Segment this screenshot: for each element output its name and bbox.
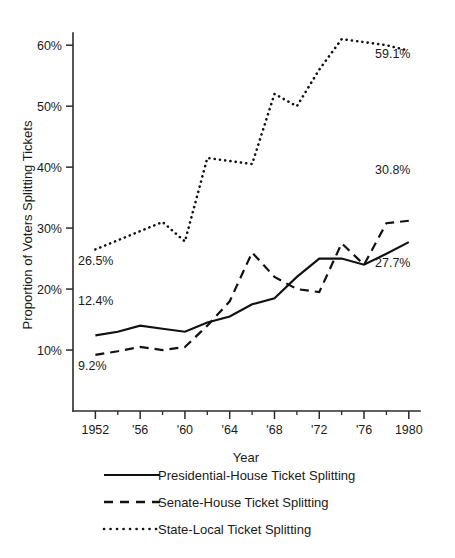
annotation-265: 26.5%: [78, 254, 113, 268]
x-tick-label: '60: [177, 423, 193, 437]
y-tick-label: 50%: [37, 100, 62, 114]
y-axis-title: Proportion of Voters Splitting Tickets: [20, 120, 35, 329]
x-tick-label: '56: [132, 423, 148, 437]
x-tick-label: '68: [266, 423, 282, 437]
x-tick-label: '76: [356, 423, 372, 437]
x-tick-label: 1952: [81, 423, 109, 437]
annotation-124: 12.4%: [78, 294, 113, 308]
y-tick-label: 60%: [37, 39, 62, 53]
x-tick-label: 1980: [395, 423, 423, 437]
y-tick-label: 20%: [37, 283, 62, 297]
y-tick-label: 10%: [37, 344, 62, 358]
legend-label-presidential-house: Presidential-House Ticket Splitting: [158, 468, 355, 483]
y-tick-label: 30%: [37, 222, 62, 236]
ticket-splitting-line-chart: Proportion of Voters Splitting Tickets 1…: [0, 0, 455, 558]
legend-label-state-local: State-Local Ticket Splitting: [158, 522, 311, 537]
x-axis-title: Year: [233, 450, 260, 465]
annotation-591: 59.1%: [375, 47, 410, 61]
legend-label-senate-house: Senate-House Ticket Splitting: [158, 495, 329, 510]
annotation-92: 9.2%: [78, 359, 107, 373]
x-tick-label: '72: [311, 423, 327, 437]
y-tick-label: 40%: [37, 161, 62, 175]
annotation-308: 30.8%: [375, 163, 410, 177]
annotation-277: 27.7%: [375, 256, 410, 270]
x-tick-label: '64: [222, 423, 238, 437]
